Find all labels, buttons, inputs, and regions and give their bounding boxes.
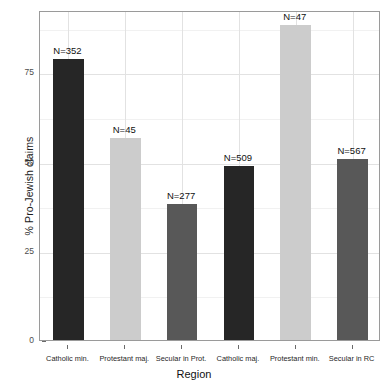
x-tick-label: Secular in Prot. <box>156 354 207 363</box>
x-tick-mark <box>124 345 125 349</box>
bar[interactable] <box>337 159 368 340</box>
y-tick-mark <box>42 341 46 342</box>
y-axis-ticks: 0255075 <box>8 0 34 391</box>
bar-value-label: N=567 <box>312 146 388 156</box>
x-tick-mark <box>238 345 239 349</box>
x-axis-ticks: Catholic min.Protestant maj.Secular in P… <box>39 345 380 361</box>
y-gridline <box>40 164 379 165</box>
x-tick-mark <box>352 345 353 349</box>
y-gridline <box>40 74 379 75</box>
bar[interactable] <box>224 166 255 340</box>
bar[interactable] <box>280 25 311 340</box>
x-tick-label: Catholic maj. <box>217 354 260 363</box>
bar-value-label: N=509 <box>198 153 278 163</box>
bar-value-label: N=45 <box>84 125 164 135</box>
x-axis-title: Region <box>0 368 388 380</box>
x-tick-label: Secular in RC <box>329 354 375 363</box>
x-tick-mark <box>181 345 182 349</box>
y-gridline-minor <box>40 297 379 298</box>
x-tick-mark <box>295 345 296 349</box>
bar-value-label: N=277 <box>141 191 221 201</box>
x-tick-label: Protestant min. <box>270 354 320 363</box>
bar[interactable] <box>167 204 198 340</box>
bar[interactable] <box>110 138 141 340</box>
y-tick-label: 75 <box>10 68 34 77</box>
x-tick-mark <box>67 345 68 349</box>
y-tick-label: 25 <box>10 247 34 256</box>
y-gridline-minor <box>40 30 379 31</box>
plot-area <box>39 11 380 341</box>
x-tick-label: Catholic min. <box>46 354 89 363</box>
y-tick-label: 50 <box>10 158 34 167</box>
y-gridline <box>40 253 379 254</box>
x-tick-label: Protestant maj. <box>99 354 149 363</box>
bar-value-label: N=47 <box>255 12 335 22</box>
bar-value-label: N=352 <box>27 46 107 56</box>
bar[interactable] <box>53 59 84 340</box>
y-gridline-minor <box>40 119 379 120</box>
y-gridline-minor <box>40 208 379 209</box>
bar-chart-figure: % Pro-Jewish claims 0255075 Catholic min… <box>0 0 388 391</box>
y-tick-label: 0 <box>10 336 34 345</box>
